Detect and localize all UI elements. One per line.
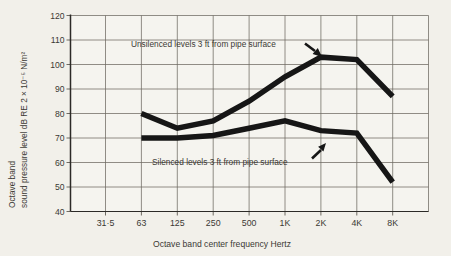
unsilenced-series-label: Unsilenced levels 3 ft from pipe surface bbox=[131, 39, 276, 49]
silenced-series-label: Silenced levels 3 ft from pipe surface bbox=[152, 157, 288, 167]
y-tick-label: 70 bbox=[55, 133, 65, 143]
y-tick-label: 50 bbox=[55, 182, 65, 192]
x-tick-label: 1K bbox=[280, 218, 291, 228]
x-tick-label: 250 bbox=[206, 218, 221, 228]
x-tick-label: 31·5 bbox=[97, 218, 115, 228]
figure-sound-pressure-chart: 12011010090807060504031·5631252505001K2K… bbox=[0, 0, 451, 256]
y-tick-label: 60 bbox=[55, 158, 65, 168]
y-tick-label: 90 bbox=[55, 84, 65, 94]
y-tick-label: 80 bbox=[55, 109, 65, 119]
y-tick-label: 40 bbox=[55, 207, 65, 217]
x-axis-label: Octave band center frequency Hertz bbox=[153, 239, 291, 249]
x-tick-label: 8K bbox=[387, 218, 398, 228]
x-tick-label: 2K bbox=[316, 218, 327, 228]
x-tick-label: 4K bbox=[351, 218, 362, 228]
y-axis-label-line2: sound pressure level dB RE 2 × 10⁻⁵ N/m² bbox=[19, 52, 29, 208]
chart-svg: 12011010090807060504031·5631252505001K2K… bbox=[0, 0, 451, 256]
y-tick-label: 110 bbox=[51, 35, 65, 45]
y-tick-label: 120 bbox=[50, 11, 65, 21]
x-tick-label: 500 bbox=[242, 218, 257, 228]
y-tick-label: 100 bbox=[50, 60, 65, 70]
y-axis-label-line1: Octave band bbox=[7, 161, 17, 208]
x-tick-label: 63 bbox=[137, 218, 147, 228]
x-tick-label: 125 bbox=[170, 218, 185, 228]
